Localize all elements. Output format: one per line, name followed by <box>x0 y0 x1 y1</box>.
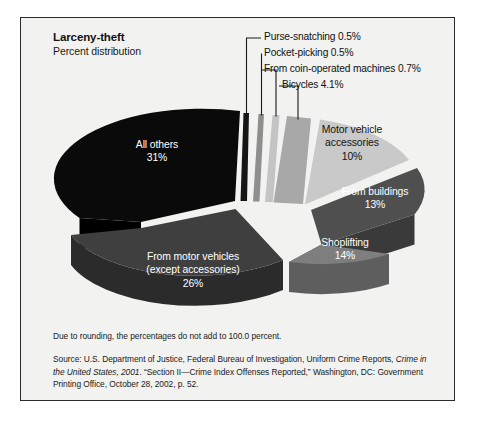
slice-pocket-picking <box>253 114 264 202</box>
callout-pocket-picking: Pocket-picking 0.5% <box>264 47 353 58</box>
footnote-block: Due to rounding, the percentages do not … <box>53 331 428 390</box>
callout-bicycles: Bicycles 4.1% <box>282 79 343 90</box>
slice-label-accessories-value: 10% <box>297 150 407 163</box>
slice-label-shoplifting-value: 14% <box>293 249 397 262</box>
slice-label-accessories-name2: accessories <box>297 136 407 149</box>
slice-label-accessories-name1: Motor vehicle <box>297 123 407 136</box>
source-note: Source: U.S. Department of Justice, Fede… <box>53 353 428 390</box>
callout-purse-snatching: Purse-snatching 0.5% <box>264 31 361 42</box>
slice-label-from-buildings: From buildings 13% <box>317 185 433 212</box>
slice-label-from-buildings-name: From buildings <box>317 185 433 198</box>
slice-label-from-motor-vehicles-value: 26% <box>117 277 269 290</box>
slice-label-motor-vehicle-accessories: Motor vehicle accessories 10% <box>297 123 407 163</box>
slice-label-from-motor-vehicles-name: From motor vehicles <box>117 250 269 263</box>
slice-label-all-others: All others 31% <box>105 138 209 165</box>
slice-label-from-motor-vehicles-qualifier: (except accessories) <box>117 263 269 276</box>
slice-all-others <box>54 109 240 222</box>
slice-label-all-others-name: All others <box>105 138 209 151</box>
slice-purse-snatching <box>241 113 250 201</box>
figure-frame: Larceny-theft Percent distribution <box>20 17 455 401</box>
source-note-lead: Source: U.S. Department of Justice, Fede… <box>53 354 396 364</box>
callout-coin-operated-machines: From coin-operated machines 0.7% <box>264 63 421 74</box>
slice-label-from-motor-vehicles: From motor vehicles (except accessories)… <box>117 250 269 290</box>
rounding-note: Due to rounding, the percentages do not … <box>53 331 428 342</box>
slice-label-shoplifting: Shoplifting 14% <box>293 236 397 263</box>
slice-label-from-buildings-value: 13% <box>317 198 433 211</box>
slice-label-shoplifting-name: Shoplifting <box>293 236 397 249</box>
slice-label-all-others-value: 31% <box>105 151 209 164</box>
